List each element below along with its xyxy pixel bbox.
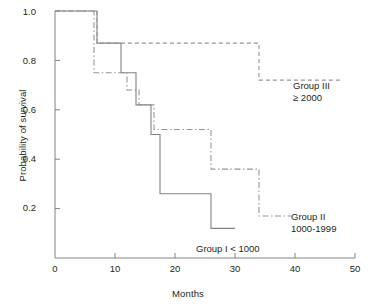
series-curve-group-ii [55, 11, 301, 216]
x-axis-ticks [115, 253, 355, 258]
series-curve-group-iii [55, 11, 343, 80]
series-layer [55, 11, 343, 228]
survival-curve-figure: Probability of survival Months 1.0 0.8 0… [0, 0, 376, 308]
axis-spines [55, 11, 355, 258]
plot-area [0, 0, 376, 308]
y-axis-ticks [55, 11, 60, 209]
